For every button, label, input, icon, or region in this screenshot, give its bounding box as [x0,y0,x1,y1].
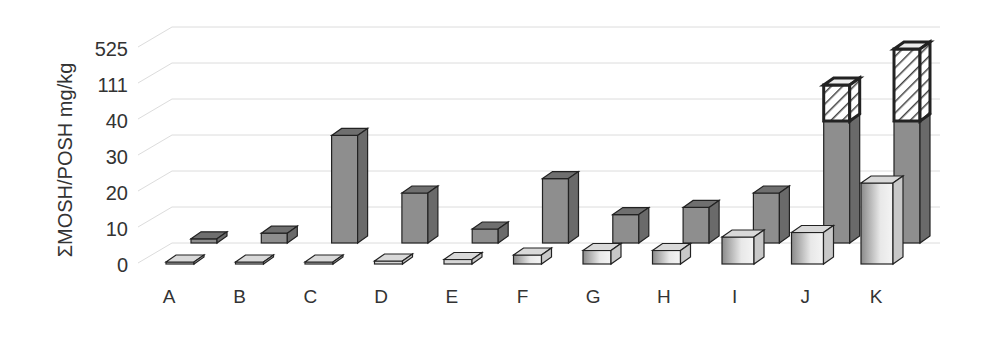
bar-front-J [792,226,834,265]
x-category-label: D [374,286,388,307]
x-axis-categories: ABCDEFGHIJK [163,286,883,307]
bar-front-D [375,254,413,264]
bar-front-A [166,255,204,264]
x-category-label: E [445,286,458,307]
bar-front-G [583,244,621,265]
bar-hatched-J [824,78,860,121]
bar-back-F [543,172,579,243]
bar-front-K [861,176,903,264]
bars [166,42,930,264]
bar-back-A [191,232,227,243]
x-category-label: A [163,286,176,307]
bar-chart: 010203040111525 ΣMOSH/POSH mg/kg ABCDEFG… [0,0,983,341]
bar-back-H [683,200,719,243]
y-axis-ticks: 010203040111525 [95,38,128,276]
bar-back-C [332,128,368,243]
bar-front-H [653,244,691,265]
bar-front-C [305,255,343,264]
x-category-label: B [233,286,246,307]
bar-back-E [472,222,508,243]
x-category-label: J [801,286,811,307]
x-category-label: K [870,286,883,307]
y-tick-label: 30 [106,146,128,168]
y-tick-label: 10 [106,218,128,240]
x-category-label: H [657,286,671,307]
bar-front-B [236,255,274,264]
bar-back-J [824,114,860,243]
x-category-label: I [732,286,737,307]
x-category-label: C [304,286,318,307]
y-tick-label: 0 [117,254,128,276]
x-category-label: F [517,286,529,307]
bar-back-D [402,186,438,243]
y-tick-label: 20 [106,182,128,204]
x-category-label: G [586,286,601,307]
bar-front-F [514,248,552,264]
y-tick-label: 525 [95,38,128,60]
y-tick-label: 40 [106,110,128,132]
y-axis-label: ΣMOSH/POSH mg/kg [54,63,76,258]
bar-front-I [722,230,764,264]
bar-front-E [444,253,482,265]
bar-hatched-K [894,42,930,121]
y-tick-label: 111 [98,74,128,96]
bar-back-G [613,208,649,243]
bar-back-B [261,226,297,243]
